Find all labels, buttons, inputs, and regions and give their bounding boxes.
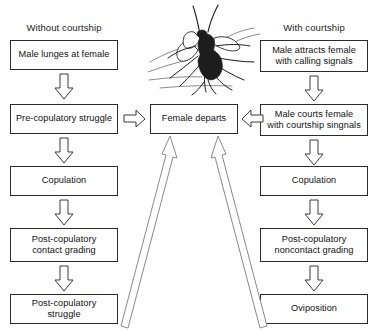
left-step-4-label-line2: contact grading	[14, 245, 114, 257]
right-step-3-label: Copulation	[264, 175, 364, 187]
bottom-left-long-up-arrow	[118, 134, 180, 330]
left-step-4-label-line1: Post-copulatory	[14, 234, 114, 246]
right-step-1-box: Male attracts female with calling signal…	[260, 40, 368, 72]
right-step-4-label-line2: noncontact grading	[264, 245, 364, 257]
left-step-5-label: Post-copulatory struggle	[14, 298, 114, 321]
right-step-5-label: Oviposition	[264, 303, 364, 315]
left-down-arrow-2	[54, 138, 74, 164]
right-down-arrow-3	[304, 200, 324, 226]
right-step-1-label-line2: with calling signals	[264, 56, 364, 68]
right-column-heading: With courtship	[260, 22, 368, 33]
right-step-2-box: Male courts female with courtship singna…	[260, 104, 368, 136]
left-to-center-arrow	[124, 110, 146, 128]
right-down-arrow-4	[304, 266, 324, 292]
left-step-2-box: Pre-copulatory struggle	[10, 104, 118, 134]
right-to-center-arrow	[242, 110, 264, 128]
right-step-5-box: Oviposition	[260, 294, 368, 324]
left-step-1-box: Male lunges at female	[10, 40, 118, 70]
right-step-4-box: Post-copulatory noncontact grading	[260, 228, 368, 262]
right-step-3-box: Copulation	[260, 166, 368, 196]
left-step-3-box: Copulation	[10, 166, 118, 196]
center-outcome-box: Female departs	[150, 104, 238, 134]
right-down-arrow-2	[304, 140, 324, 166]
right-step-1-label-line1: Male attracts female	[264, 45, 364, 57]
right-step-2-label-line2: with courtship singnals	[264, 120, 364, 132]
left-down-arrow-1	[54, 74, 74, 100]
left-down-arrow-3	[54, 200, 74, 226]
right-step-2-label-line1: Male courts female	[264, 109, 364, 121]
left-step-3-label: Copulation	[14, 175, 114, 187]
courtship-flow-diagram: Without courtship With courtship	[0, 0, 377, 332]
center-outcome-label: Female departs	[154, 113, 234, 125]
right-down-arrow-1	[304, 76, 324, 102]
left-down-arrow-4	[54, 266, 74, 292]
left-step-2-label: Pre-copulatory struggle	[14, 113, 114, 125]
left-step-4-box: Post-copulatory contact grading	[10, 228, 118, 262]
bottom-right-long-up-arrow	[208, 134, 270, 330]
left-step-5-box: Post-copulatory struggle	[10, 294, 118, 324]
mating-insects-illustration	[148, 0, 270, 100]
right-step-4-label-line1: Post-copulatory	[264, 234, 364, 246]
left-step-1-label: Male lunges at female	[14, 49, 114, 61]
left-column-heading: Without courtship	[10, 22, 118, 33]
